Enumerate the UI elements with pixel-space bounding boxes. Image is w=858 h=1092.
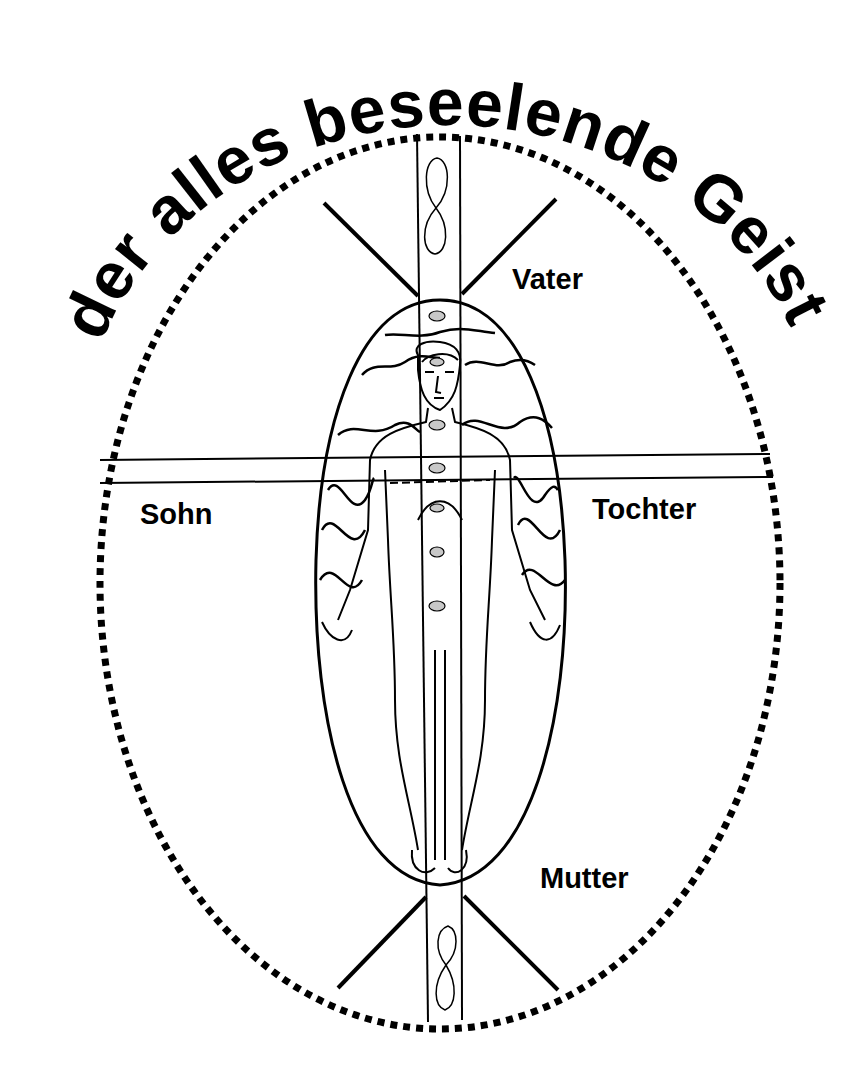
label-tochter: Tochter	[592, 495, 696, 524]
vertical-band	[417, 134, 462, 1022]
aura-ellipse	[316, 300, 566, 885]
outer-dotted-ellipse	[100, 137, 780, 1029]
label-vater: Vater	[512, 265, 583, 294]
chakra-throat	[429, 420, 445, 430]
chakra-heart	[429, 463, 445, 473]
diagram-canvas: der alles beseelende Geist	[0, 0, 858, 1092]
chakra-root	[429, 601, 445, 611]
chakra-solar	[430, 504, 444, 512]
bottom-v-lines	[338, 896, 558, 990]
chakra-third-eye	[430, 358, 444, 366]
infinity-icon-top	[425, 158, 448, 254]
chakra-sacral	[430, 547, 444, 557]
infinity-icon-bottom	[436, 926, 456, 1010]
title-arc-text: der alles beseelende Geist	[47, 65, 845, 349]
label-mutter: Mutter	[540, 864, 629, 893]
label-sohn: Sohn	[140, 500, 213, 529]
chakra-crown	[429, 311, 445, 321]
